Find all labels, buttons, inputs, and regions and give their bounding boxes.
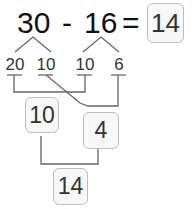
first-result-box: 10: [25, 97, 59, 133]
answer-box: 14: [147, 3, 184, 43]
subtrahend-part-1: 10: [71, 56, 99, 73]
equation-operator: -: [62, 8, 72, 38]
branch-16: [83, 37, 119, 52]
final-result-box: 14: [53, 168, 88, 205]
minuend-part-2: 10: [32, 56, 60, 73]
second-result-box: 4: [83, 112, 119, 149]
equation-equals: =: [122, 8, 140, 38]
minuend-part-1: 20: [1, 56, 29, 73]
equation-minuend: 30: [17, 8, 50, 38]
subtrahend-part-2: 6: [105, 56, 133, 73]
branch-30: [15, 37, 51, 52]
equation-subtrahend: 16: [84, 8, 117, 38]
